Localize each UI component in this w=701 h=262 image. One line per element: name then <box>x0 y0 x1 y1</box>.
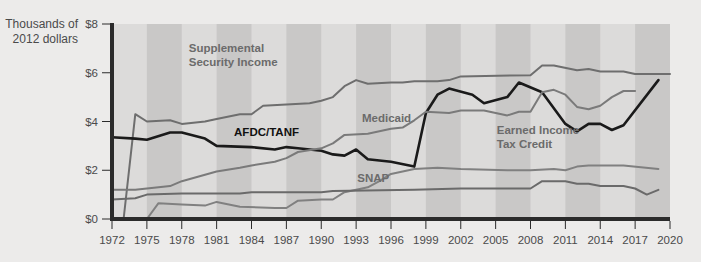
shaded-band <box>496 24 531 219</box>
shaded-band <box>635 24 670 219</box>
series-label-earned-income-tax-credit: Tax Credit <box>497 138 553 150</box>
series-label-supplemental-security-income: Supplemental <box>189 42 264 54</box>
y-axis-title-line: 2012 dollars <box>13 32 78 46</box>
shaded-band <box>286 24 321 219</box>
x-tick-label: 1984 <box>239 234 265 246</box>
x-tick-label: 1987 <box>274 234 300 246</box>
x-tick-label: 2002 <box>448 234 474 246</box>
x-tick-label: 2008 <box>518 234 544 246</box>
x-tick-label: 1990 <box>308 234 334 246</box>
x-tick-label: 2011 <box>553 234 578 246</box>
x-tick-label: 2017 <box>622 234 648 246</box>
series-label-supplemental-security-income: Security Income <box>189 56 278 68</box>
y-tick-label: $2 <box>85 164 98 176</box>
line-chart: $0$2$4$6$8197219751978198119841987199019… <box>0 0 701 262</box>
y-tick-label: $6 <box>85 67 98 79</box>
x-tick-label: 1972 <box>99 234 125 246</box>
x-tick-label: 1978 <box>169 234 195 246</box>
x-tick-label: 2005 <box>483 234 509 246</box>
y-tick-label: $4 <box>85 116 98 128</box>
x-tick-label: 1996 <box>378 234 404 246</box>
x-tick-label: 2020 <box>657 234 683 246</box>
series-label-earned-income-tax-credit: Earned Income <box>497 124 579 136</box>
series-label-afdc-tanf: AFDC/TANF <box>234 126 299 138</box>
series-label-medicaid: Medicaid <box>362 112 411 124</box>
x-tick-label: 1993 <box>343 234 369 246</box>
y-axis-title-line: Thousands of <box>5 17 78 31</box>
y-tick-label: $8 <box>85 18 98 30</box>
y-tick-label: $0 <box>85 213 98 225</box>
y-axis-title: Thousands of2012 dollars <box>5 17 78 46</box>
x-tick-label: 2014 <box>587 234 613 246</box>
x-tick-label: 1975 <box>134 234 160 246</box>
x-tick-label: 1999 <box>413 234 439 246</box>
shaded-band <box>565 24 600 219</box>
series-label-snap: SNAP <box>357 172 389 184</box>
x-tick-label: 1981 <box>204 234 230 246</box>
